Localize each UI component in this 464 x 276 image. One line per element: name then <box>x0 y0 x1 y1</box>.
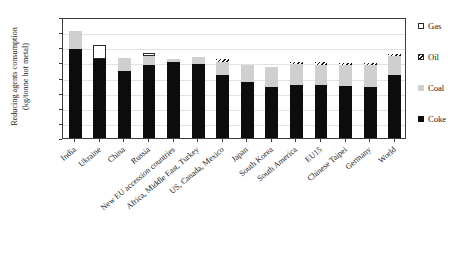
bar <box>118 17 131 138</box>
bar <box>143 17 156 138</box>
bar-segment-gas <box>143 53 156 57</box>
bar-segment-oil <box>339 63 352 65</box>
legend-label: Oil <box>428 53 439 62</box>
bar-segment-coal <box>315 65 328 85</box>
bar <box>69 17 82 138</box>
bar-segment-coal <box>69 31 82 48</box>
legend-item-coal: Coal <box>418 84 444 93</box>
legend-item-gas: Gas <box>418 22 441 31</box>
y-axis-title: Reducing agents consumption (kg/tonne ho… <box>10 1 31 153</box>
bar-segment-coal <box>216 62 229 75</box>
legend-swatch-coke-icon <box>418 116 424 122</box>
y-axis-tick-mark <box>59 139 62 140</box>
bar-segment-coke <box>93 59 106 138</box>
legend-swatch-gas-icon <box>418 23 424 29</box>
legend-label: Coke <box>428 115 446 124</box>
bar-segment-coal <box>118 58 131 72</box>
bar-segment-coke <box>339 86 352 138</box>
bar-segment-coal <box>290 64 303 85</box>
legend-item-coke: Coke <box>418 115 446 124</box>
bar-segment-coal <box>388 56 401 76</box>
bar-segment-coke <box>118 71 131 138</box>
legend-label: Gas <box>428 22 441 31</box>
y-axis-title-line-1: Reducing agents consumption <box>10 1 21 153</box>
y-axis-title-line-2: (kg/tonne hot metal) <box>20 1 31 153</box>
bar-segment-coal <box>167 59 180 61</box>
legend-swatch-coal-icon <box>418 85 424 91</box>
bar <box>167 17 180 138</box>
bar-segment-coal <box>339 65 352 85</box>
bar-segment-oil <box>364 63 377 66</box>
bar <box>93 17 106 138</box>
bar-segment-oil <box>315 62 328 64</box>
legend-swatch-oil-icon <box>418 54 424 60</box>
bar-segment-oil <box>216 59 229 62</box>
bar <box>265 17 278 138</box>
bar-segment-coal <box>364 65 377 86</box>
bar-segment-coal <box>192 57 205 64</box>
legend-item-oil: Oil <box>418 53 439 62</box>
legend-label: Coal <box>428 84 444 93</box>
bar-segment-coke <box>167 62 180 138</box>
chart-figure: Reducing agents consumption (kg/tonne ho… <box>0 0 464 276</box>
bar-segment-oil <box>388 54 401 56</box>
bar-segment-coke <box>69 49 82 138</box>
bar-segment-gas <box>93 45 106 59</box>
bar-segment-coal <box>241 65 254 82</box>
bar-segment-coke <box>143 65 156 138</box>
bar-segment-oil <box>290 62 303 64</box>
bar-segment-coal <box>143 56 156 65</box>
bar <box>388 17 401 138</box>
bar <box>339 17 352 138</box>
bar-segment-coal <box>265 67 278 87</box>
